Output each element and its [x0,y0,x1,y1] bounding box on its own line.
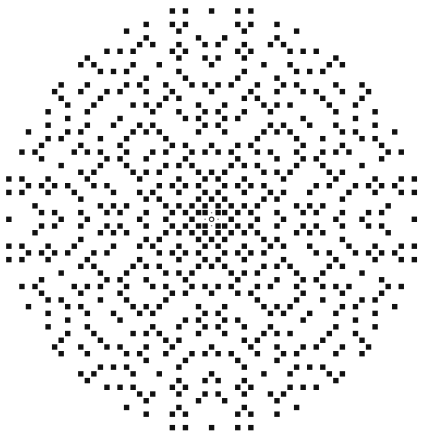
prime-dot [222,196,227,201]
prime-dot [274,102,279,107]
prime-dot [117,317,122,322]
prime-dot [117,156,122,161]
prime-dot [222,116,227,121]
prime-dot [39,223,44,228]
prime-dot [215,391,220,396]
prime-dot [183,143,188,148]
prime-dot [117,223,122,228]
prime-dot [6,257,11,262]
prime-dot [346,284,351,289]
prime-dot [287,331,292,336]
prime-dot [85,82,90,87]
prime-dot [399,243,404,248]
prime-dot [281,176,286,181]
prime-dot [202,391,207,396]
prime-dot [307,190,312,195]
prime-dot [104,250,109,255]
prime-dot [85,109,90,114]
prime-dot [222,170,227,175]
prime-dot [144,358,149,363]
prime-dot [320,69,325,74]
prime-dot [255,338,260,343]
prime-dot [137,176,142,181]
prime-dot [45,176,50,181]
prime-dot [98,149,103,154]
prime-dot [215,257,220,262]
prime-dot [85,351,90,356]
prime-dot [150,123,155,128]
prime-dot [300,49,305,54]
prime-dot [274,304,279,309]
prime-dot [333,257,338,262]
prime-dot [202,223,207,228]
prime-dot [379,210,384,215]
prime-dot [124,284,129,289]
prime-dot [144,264,149,269]
prime-dot [222,210,227,215]
prime-dot [39,277,44,282]
prime-dot [392,129,397,134]
prime-dot [209,291,214,296]
prime-dot [117,89,122,94]
prime-dot [372,123,377,128]
prime-dot [229,163,234,168]
prime-dot [104,49,109,54]
prime-dot [78,170,83,175]
prime-dot [45,257,50,262]
prime-dot [98,284,103,289]
prime-dot [170,49,175,54]
prime-dot [176,42,181,47]
prime-dot [209,143,214,148]
prime-dot [274,196,279,201]
origin-tick-icon [217,219,219,221]
prime-dot [274,223,279,228]
prime-dot [124,163,129,168]
prime-dot [104,344,109,349]
prime-dot [242,176,247,181]
prime-dot [176,163,181,168]
prime-dot [183,22,188,27]
prime-dot [32,230,37,235]
prime-dot [176,257,181,262]
prime-dot [340,196,345,201]
prime-dot [353,102,358,107]
prime-dot [137,42,142,47]
prime-dot [248,143,253,148]
prime-dot [379,291,384,296]
prime-dot [385,149,390,154]
prime-dot [170,425,175,430]
prime-dot [26,183,31,188]
prime-dot [85,176,90,181]
prime-dot [150,311,155,316]
prime-dot [19,149,24,154]
prime-dot [287,304,292,309]
prime-dot [242,257,247,262]
prime-dot [170,385,175,390]
prime-dot [320,297,325,302]
prime-dot [91,371,96,376]
prime-dot [209,89,214,94]
prime-dot [19,190,24,195]
prime-dot [104,89,109,94]
prime-dot [242,270,247,275]
prime-dot [274,75,279,80]
prime-dot [196,331,201,336]
prime-dot [255,230,260,235]
prime-dot [176,203,181,208]
prime-dot [65,250,70,255]
prime-dot [196,210,201,215]
prime-dot [255,297,260,302]
prime-dot [372,109,377,114]
prime-dot [189,351,194,356]
prime-dot [255,136,260,141]
prime-dot [307,364,312,369]
prime-dot [170,223,175,228]
prime-dot [65,183,70,188]
prime-dot [287,129,292,134]
prime-dot [52,89,57,94]
prime-dot [170,143,175,148]
prime-dot [320,230,325,235]
prime-dot [144,304,149,309]
prime-dot [327,371,332,376]
prime-dot [130,304,135,309]
